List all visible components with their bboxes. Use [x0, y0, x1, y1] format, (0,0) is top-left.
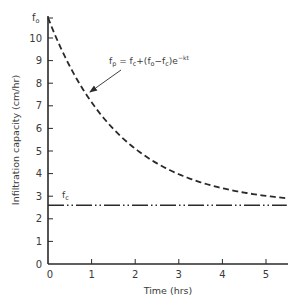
- y-tick-label: 1: [36, 236, 42, 247]
- y-tick-label: 9: [36, 55, 42, 66]
- y-tick-label: 5: [36, 146, 42, 157]
- y-tick-label: 0: [36, 259, 42, 270]
- y-tick-label: 4: [36, 168, 42, 179]
- y-tick-label: 3: [36, 191, 42, 202]
- x-tick-label: 4: [219, 269, 225, 280]
- x-tick-label: 0: [47, 269, 53, 280]
- y-tick-label: 8: [36, 78, 42, 89]
- y-tick-label: 2: [36, 213, 42, 224]
- fc-label: fc: [62, 190, 69, 202]
- y-tick-label: 10: [29, 33, 42, 44]
- horton-infiltration-chart: 012345678910 012345 fo fc fp = fc+(fo−fc…: [0, 0, 299, 307]
- x-tick-label: 3: [176, 269, 182, 280]
- fp-infiltration-curve: [48, 18, 288, 199]
- axes: [48, 16, 288, 264]
- fo-label: fo: [32, 12, 40, 25]
- x-tick-label: 1: [88, 269, 94, 280]
- x-tick-label: 5: [263, 269, 269, 280]
- x-tick-label: 2: [132, 269, 138, 280]
- y-axis-title: Infiltration capacity (cm/hr): [10, 75, 21, 205]
- y-tick-label: 7: [36, 100, 42, 111]
- equation-label: fp = fc+(fo−fc)e−kt: [109, 54, 189, 68]
- x-axis-title: Time (hrs): [143, 285, 193, 296]
- equation-arrow: [90, 70, 121, 92]
- y-tick-label: 6: [36, 123, 42, 134]
- y-axis-ticks: 012345678910: [29, 33, 53, 270]
- x-axis-ticks: 012345: [47, 259, 269, 280]
